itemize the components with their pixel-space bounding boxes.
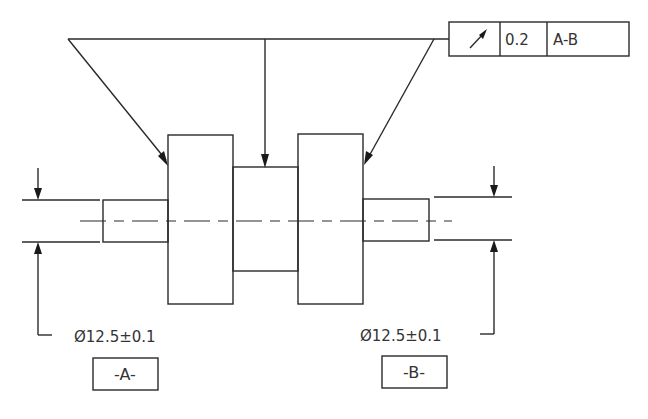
dim-arrow-up-icon xyxy=(490,240,498,252)
leader-lines xyxy=(68,39,449,168)
center-hub xyxy=(233,167,298,271)
dim-arrow-down-icon xyxy=(34,188,42,200)
datum-b-label: -B- xyxy=(403,363,425,382)
dim-arrow-down-icon xyxy=(490,185,498,197)
leader-arrow-right-icon xyxy=(364,151,373,165)
fcf-tolerance: 0.2 xyxy=(505,31,529,49)
right-dimension: Ø12.5±0.1 xyxy=(360,166,512,345)
right-journal xyxy=(363,199,429,241)
dim-arrow-up-icon xyxy=(34,242,42,254)
datum-a-label: -A- xyxy=(114,365,136,384)
shaft-drawing: 0.2 A-B Ø12.5±0.1 xyxy=(0,0,648,419)
leader-arrow-center-icon xyxy=(261,154,269,168)
feature-control-frame: 0.2 A-B xyxy=(449,22,629,56)
right-collar xyxy=(298,134,363,304)
right-diameter-label: Ø12.5±0.1 xyxy=(360,327,442,345)
left-diameter-label: Ø12.5±0.1 xyxy=(74,328,156,346)
datum-a: -A- xyxy=(93,358,158,390)
left-collar xyxy=(168,135,233,304)
left-dimension: Ø12.5±0.1 xyxy=(22,168,156,346)
leader-arrow-left-icon xyxy=(158,151,168,166)
datum-b: -B- xyxy=(382,356,447,388)
fcf-datum-reference: A-B xyxy=(553,31,578,49)
fcf-border xyxy=(449,22,629,56)
runout-arrow-icon xyxy=(470,29,487,48)
